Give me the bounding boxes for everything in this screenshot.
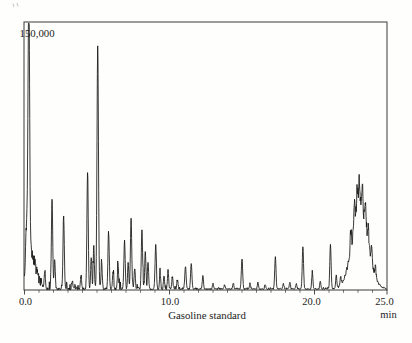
figure-caption: Gasoline standard	[168, 309, 246, 321]
chromatogram-trace	[25, 23, 387, 290]
x-axis-ticks	[25, 290, 388, 295]
plot-frame	[24, 22, 387, 290]
x-tick-label-25: 25.0	[375, 296, 393, 307]
y-axis-fullscale-label: 150,000	[20, 27, 55, 39]
x-axis-unit-label: min	[380, 309, 397, 320]
x-tick-label-10: 10.0	[161, 296, 179, 307]
scan-artifact	[13, 3, 18, 7]
figure-page: 150,000 0.0 10.0 20.0 25.0 min Gasoline …	[0, 0, 412, 343]
x-tick-label-20: 20.0	[302, 296, 320, 307]
x-tick-label-0: 0.0	[19, 296, 32, 307]
chromatogram-figure: 150,000 0.0 10.0 20.0 25.0 min Gasoline …	[0, 0, 412, 343]
